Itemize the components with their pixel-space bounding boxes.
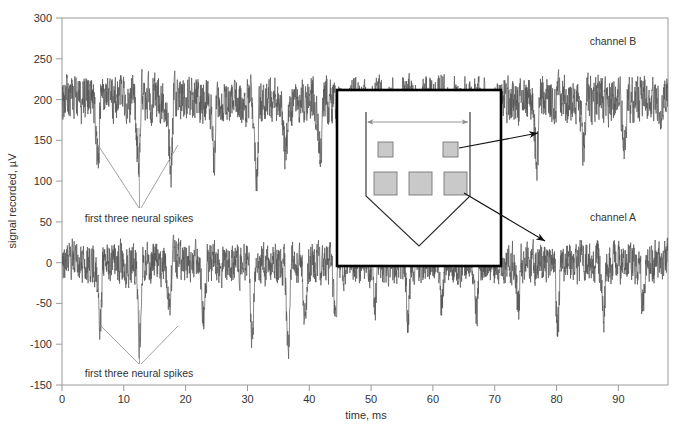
spike-annotation-label-lower: first three neural spikes	[85, 367, 194, 379]
y-tick-label: -150	[30, 379, 52, 391]
neural-recording-figure: 300 250 200 150 100 50 0 -50 -100 -150 0	[0, 0, 685, 425]
x-tick-label: 50	[365, 393, 377, 405]
y-tick-label: 150	[34, 134, 52, 146]
x-axis-title: time, ms	[345, 409, 387, 421]
electrode-pad-large	[409, 172, 432, 195]
x-tick-label: 80	[550, 393, 562, 405]
channel-label-b: channel B	[590, 35, 637, 47]
y-tick-label: 50	[40, 216, 52, 228]
x-tick-label: 30	[241, 393, 253, 405]
y-tick-label: 0	[46, 257, 52, 269]
y-tick-label: 300	[34, 12, 52, 24]
y-tick-label: -50	[36, 297, 52, 309]
figure-svg: 300 250 200 150 100 50 0 -50 -100 -150 0	[0, 0, 685, 425]
x-tick-label: 60	[427, 393, 439, 405]
y-tick-label: 100	[34, 175, 52, 187]
channel-label-a: channel A	[590, 211, 636, 223]
y-tick-label: -100	[30, 338, 52, 350]
x-tick-label: 90	[612, 393, 624, 405]
y-axis-title: signal recorded, µV	[6, 153, 18, 249]
x-tick-label: 10	[118, 393, 130, 405]
electrode-pad-small	[443, 142, 458, 157]
y-tick-label: 200	[34, 94, 52, 106]
x-tick-label: 0	[59, 393, 65, 405]
electrode-pad-large	[444, 172, 467, 195]
x-tick-label: 40	[303, 393, 315, 405]
electrode-pad-large	[374, 172, 397, 195]
x-tick-label: 20	[179, 393, 191, 405]
y-tick-label: 250	[34, 53, 52, 65]
electrode-pad-small	[378, 142, 393, 157]
electrode-array-inset	[337, 90, 501, 266]
spike-annotation-label-upper: first three neural spikes	[85, 212, 194, 224]
x-tick-label: 70	[489, 393, 501, 405]
